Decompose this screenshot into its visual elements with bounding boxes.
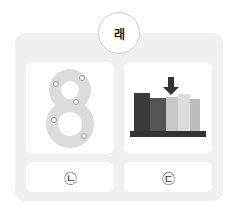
option-label: ㉢ <box>162 168 175 187</box>
number-eight-icon <box>40 68 100 148</box>
option-button-2[interactable]: ㉢ <box>124 162 212 192</box>
books-icon <box>128 77 208 139</box>
title-text: 래 <box>114 25 125 42</box>
image-card-eight <box>26 62 114 154</box>
image-card-books <box>124 62 212 154</box>
option-button-1[interactable]: ㉡ <box>26 162 114 192</box>
option-label: ㉡ <box>64 168 77 187</box>
title-badge: 래 <box>98 12 140 54</box>
